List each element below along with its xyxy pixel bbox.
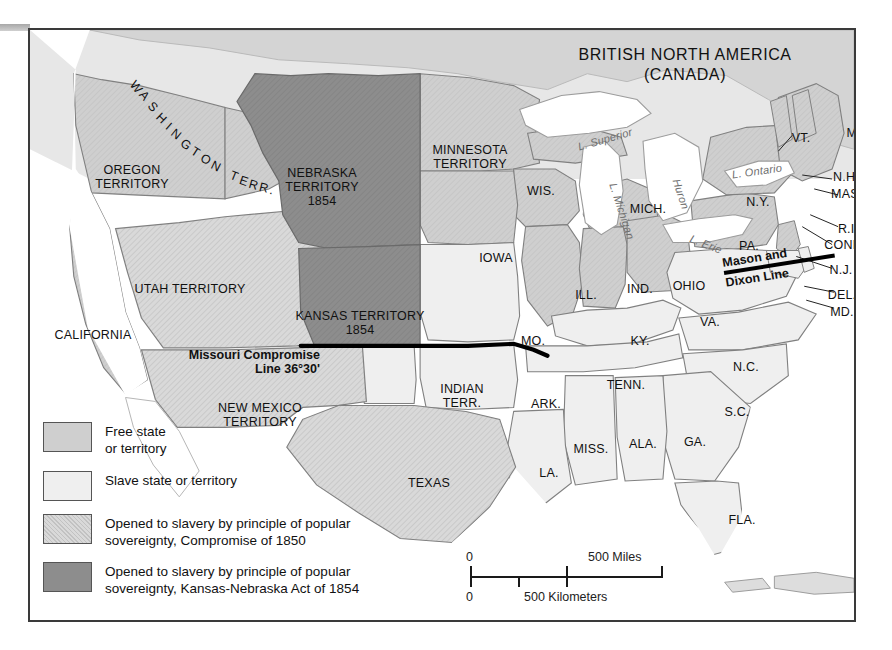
missouri-compromise-line2: Line 36°30' [90,362,320,376]
label-state-ga: GA. [684,435,706,449]
legend-item-0: Free stateor territory [43,422,373,458]
label-state-mo: MO. [521,334,545,348]
label-territory-minnesota-territory: MINNESOTATERRITORY [432,143,507,171]
legend-swatch-pop1854 [43,562,92,592]
label-washington-territory: W A S H I N G T O N T E R R . [138,78,288,228]
label-state-la: LA. [539,466,558,480]
missouri-compromise-label: Missouri Compromise Line 36°30' [90,348,320,376]
page-edge-artifact [0,24,30,31]
scale-label-km-max: 500 Kilometers [524,590,607,604]
map-title-line1: BRITISH NORTH AMERICA [578,46,791,64]
label-state-va: VA. [700,315,720,329]
label-state-r-i: R.I. [838,222,856,236]
label-territory-indian-terr: INDIANTERR. [440,382,484,410]
legend-item-2: Opened to slavery by principle of popula… [43,514,373,550]
label-territory-texas: TEXAS [408,476,450,490]
scale-tick-km-250 [518,576,520,587]
label-state-mass: MASS. [831,187,856,201]
label-territory-utah-territory: UTAH TERRITORY [135,282,246,296]
map-legend: Free stateor territorySlave state or ter… [43,422,373,611]
label-state-miss: MISS. [573,442,608,456]
legend-label-3: Opened to slavery by principle of popula… [105,562,359,598]
label-state-s-c: S.C. [724,405,749,419]
label-state-md: MD. [830,305,854,319]
label-state-n-c: N.C. [733,360,759,374]
scale-tick-km-0 [470,576,472,587]
label-state-iowa: IOWA [479,251,513,265]
label-state-n-h: N.H. [833,170,856,184]
label-territory-kansas-territory-1854: KANSAS TERRITORY1854 [296,309,425,337]
label-state-mich: MICH. [630,202,666,216]
label-state-ohio: OHIO [673,279,706,293]
map-title-line2: (CANADA) [644,66,726,84]
label-state-ill: ILL. [575,288,597,302]
label-state-del: DEL. [828,288,856,302]
missouri-compromise-line1: Missouri Compromise [90,348,320,362]
legend-swatch-slave [43,471,92,501]
label-state-ky: KY. [630,334,649,348]
map-frame: OREGONTERRITORYNEBRASKATERRITORY1854MINN… [28,28,856,622]
legend-swatch-free [43,422,92,452]
legend-item-1: Slave state or territory [43,471,373,501]
label-state-fla: FLA. [728,513,755,527]
scale-tick-km-500 [566,576,568,587]
scale-label-miles-zero: 0 [466,550,473,564]
label-state-me: ME. [847,126,856,140]
legend-swatch-pop1850 [43,514,92,544]
scale-tick-mi-500 [661,566,663,578]
scale-label-km-zero: 0 [466,590,473,604]
label-state-ala: ALA. [629,437,657,451]
label-territory-california: CALIFORNIA [54,328,131,342]
label-state-n-y: N.Y. [746,195,770,209]
label-state-vt: VT. [792,131,811,145]
label-state-ind: IND. [627,282,653,296]
label-state-wis: WIS. [527,184,555,198]
legend-label-2: Opened to slavery by principle of popula… [105,514,350,550]
label-state-ark: ARK. [531,397,561,411]
label-territory-nebraska-territory-1854: NEBRASKATERRITORY1854 [285,166,359,208]
legend-item-3: Opened to slavery by principle of popula… [43,562,373,598]
legend-label-1: Slave state or territory [105,471,237,489]
scale-label-miles-max: 500 Miles [588,550,642,564]
label-state-tenn: TENN. [607,378,646,392]
legend-label-0: Free stateor territory [105,422,167,458]
